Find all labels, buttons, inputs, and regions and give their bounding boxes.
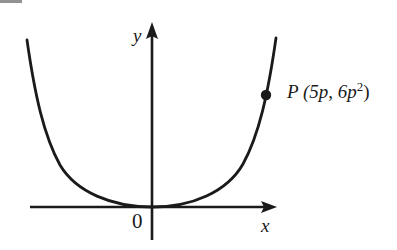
x-axis-label: x bbox=[261, 216, 269, 235]
point-p-dot bbox=[261, 90, 271, 100]
point-p-x-value: 5p bbox=[309, 81, 328, 102]
point-p-suffix: ) bbox=[363, 81, 369, 102]
point-p-label: P (5p, 6p2) bbox=[287, 82, 370, 101]
parabola-figure: y x 0 P (5p, 6p2) bbox=[0, 0, 397, 250]
point-p-y-base: 6p bbox=[338, 81, 357, 102]
y-axis-label: y bbox=[133, 26, 141, 45]
point-p-marker-group bbox=[261, 90, 271, 100]
origin-label: 0 bbox=[132, 211, 143, 232]
point-p-separator: , bbox=[328, 81, 338, 102]
figure-canvas bbox=[0, 0, 397, 250]
point-p-prefix: P ( bbox=[287, 81, 309, 102]
